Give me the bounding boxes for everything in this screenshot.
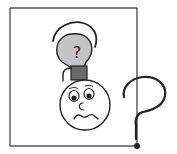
bulb-question-mark: ? — [73, 43, 82, 62]
confused-lightbulb-illustration: ? — [0, 0, 177, 154]
lightbulb-icon: ? — [57, 34, 92, 81]
question-mark-icon — [124, 77, 166, 149]
confused-face-icon — [60, 80, 110, 130]
